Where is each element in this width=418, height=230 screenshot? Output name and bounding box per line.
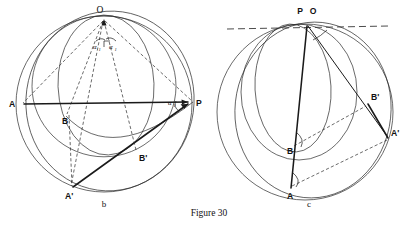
panel-c-point-label-A: A — [287, 191, 293, 201]
panel-c-point-label-P: P — [297, 6, 303, 16]
panel-c-point-label-Bp: B' — [371, 92, 379, 102]
panel-c-dashed-B-Bp — [294, 106, 366, 146]
panel-b-sublabel: b — [102, 199, 107, 209]
panel-b-angle-label-O-left: α 1 — [93, 43, 101, 52]
panel-b-dashed-B-Ap — [69, 115, 72, 186]
panel-b-point-label-Bp: B' — [139, 153, 147, 163]
panel-c-point-label-O: O — [310, 6, 317, 16]
panel-c-diagram: P O B' A' B A c — [209, 0, 418, 230]
panel-b-alpha-O-right-sub: 1 — [115, 47, 117, 52]
panel-b-point-label-Ap: A' — [65, 191, 73, 201]
panel-b-diagram: α 1 α 1 α 1 O A B P B' A' b — [0, 0, 209, 230]
panel-b-inner-circle-outline — [32, 16, 176, 157]
panel-b-second-large-circle — [14, 0, 205, 202]
panel-c-small-circle — [252, 22, 335, 154]
panel-b-dashed-O-Bp — [104, 21, 136, 150]
panel-b-segment-A-P[interactable] — [24, 102, 188, 104]
panel-b-point-label-A: A — [9, 99, 15, 109]
panel-b-alpha-O-right-base: α — [109, 43, 113, 51]
panel-c-segment-P-Ap[interactable] — [308, 26, 387, 136]
panel-b-angle-label-O-right: α 1 — [109, 43, 117, 52]
panel-c-second-large-circle — [226, 14, 400, 205]
panel-b-alpha-O-left-sub: 1 — [99, 47, 101, 52]
panel-c-dashed-A-Ap — [292, 140, 387, 186]
figure-page: α 1 α 1 α 1 O A B P B' A' b — [0, 0, 418, 230]
panel-c-segment-Bp-Ap[interactable] — [368, 104, 388, 138]
panel-b-alpha-P-sub: 1 — [174, 103, 176, 108]
panel-b-small-circle — [56, 13, 157, 156]
panel-b-segment-Ap-P[interactable] — [73, 104, 188, 187]
panel-c-segment-P-A[interactable] — [291, 26, 307, 188]
panel-b-dashed-O-P — [105, 21, 192, 101]
panel-b-angle-arc-O-right — [106, 38, 116, 41]
panel-b-point-label-B: B — [62, 116, 68, 126]
panel-c-angle-arc-P — [313, 30, 327, 40]
panel-b-alpha-O-left-base: α — [93, 43, 97, 51]
panel-b-point-label-O: O — [97, 5, 104, 15]
panel-b-alpha-P-base: α — [168, 99, 172, 107]
panel-c-inner-circle — [241, 24, 357, 160]
panel-c-point-label-Ap: A' — [391, 128, 399, 138]
panel-b-dashed-O-B — [67, 21, 103, 114]
panel-b-point-label-P: P — [196, 98, 202, 108]
panel-c-sublabel: c — [307, 199, 311, 209]
panel-c-point-label-B: B — [287, 146, 293, 156]
